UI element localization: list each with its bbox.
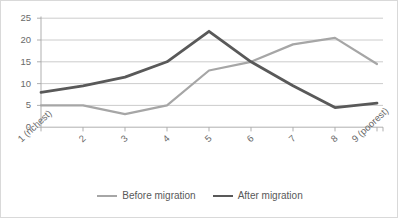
legend-label-before-migration: Before migration	[122, 190, 195, 201]
y-tick-label-15: 15	[9, 57, 31, 67]
y-tick-label-10: 10	[9, 79, 31, 89]
line-swatch-light-icon	[97, 195, 117, 197]
legend-item-after-migration[interactable]: After migration	[213, 190, 303, 201]
legend-item-before-migration[interactable]: Before migration	[97, 190, 195, 201]
y-axis-ticks	[37, 18, 41, 127]
chart-container: 25 20 15 10 5 0 1 (richest) 2 3 4 5 6 7 …	[0, 0, 398, 218]
line-swatch-dark-icon	[213, 195, 233, 197]
y-tick-label-25: 25	[9, 13, 31, 23]
chart-legend: Before migration After migration	[1, 190, 398, 201]
y-tick-label-20: 20	[9, 35, 31, 45]
x-axis-ticks	[41, 127, 383, 131]
chart-plot-area	[1, 1, 398, 218]
y-tick-label-5: 5	[9, 100, 31, 110]
legend-label-after-migration: After migration	[238, 190, 303, 201]
gridlines	[41, 18, 383, 105]
